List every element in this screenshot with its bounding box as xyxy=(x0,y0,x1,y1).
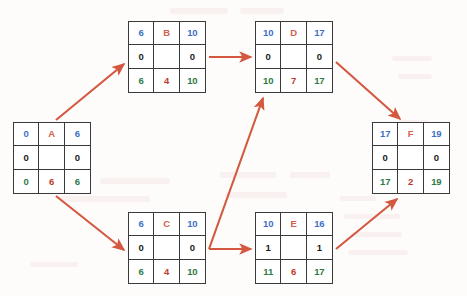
node-f-activity-name: F xyxy=(398,123,423,146)
node-a-free-slack: 0 xyxy=(14,146,39,169)
node-b-free-slack: 0 xyxy=(129,45,154,68)
node-e-late-finish: 17 xyxy=(307,260,332,283)
node-f-late-start: 17 xyxy=(373,170,398,193)
node-c-late-start: 6 xyxy=(129,260,154,283)
node-d-activity-name: D xyxy=(281,22,306,45)
node-c-late-finish: 10 xyxy=(180,260,205,283)
node-b-total-slack: 0 xyxy=(180,45,205,68)
node-b-late-start: 6 xyxy=(129,69,154,92)
node-d-free-slack: 0 xyxy=(256,45,281,68)
edge-a-to-b xyxy=(56,64,124,120)
edge-e-to-f xyxy=(336,199,397,249)
node-a[interactable]: 0 A 6 0 0 0 6 6 xyxy=(13,122,91,194)
node-e-late-start: 11 xyxy=(256,260,281,283)
node-c-duration: 4 xyxy=(154,260,179,283)
node-a-center-blank xyxy=(39,146,64,169)
node-a-activity-name: A xyxy=(39,123,64,146)
node-d-late-finish: 17 xyxy=(307,69,332,92)
node-d-total-slack: 0 xyxy=(307,45,332,68)
node-f-early-finish: 19 xyxy=(424,123,449,146)
node-f-early-start: 17 xyxy=(373,123,398,146)
node-c-activity-name: C xyxy=(154,213,179,236)
node-d-early-finish: 17 xyxy=(307,22,332,45)
node-a-early-finish: 6 xyxy=(65,123,90,146)
node-e-activity-name: E xyxy=(281,213,306,236)
node-e-total-slack: 1 xyxy=(307,236,332,259)
node-d[interactable]: 10 D 17 0 0 10 7 17 xyxy=(255,21,333,93)
node-c-free-slack: 0 xyxy=(129,236,154,259)
node-e-free-slack: 1 xyxy=(256,236,281,259)
node-b-activity-name: B xyxy=(154,22,179,45)
edge-a-to-c xyxy=(56,196,124,250)
node-a-late-start: 0 xyxy=(14,170,39,193)
node-d-late-start: 10 xyxy=(256,69,281,92)
node-c-early-finish: 10 xyxy=(180,213,205,236)
edge-d-to-f xyxy=(336,62,400,119)
node-a-early-start: 0 xyxy=(14,123,39,146)
node-b-late-finish: 10 xyxy=(180,69,205,92)
node-a-duration: 6 xyxy=(39,170,64,193)
node-b-center-blank xyxy=(154,45,179,68)
node-e-center-blank xyxy=(281,236,306,259)
node-f-total-slack: 0 xyxy=(424,146,449,169)
node-d-center-blank xyxy=(281,45,306,68)
node-f-duration: 2 xyxy=(398,170,423,193)
node-c-center-blank xyxy=(154,236,179,259)
node-f-free-slack: 0 xyxy=(373,146,398,169)
node-c-total-slack: 0 xyxy=(180,236,205,259)
node-f-center-blank xyxy=(398,146,423,169)
node-e-duration: 6 xyxy=(281,260,306,283)
node-a-late-finish: 6 xyxy=(65,170,90,193)
node-d-duration: 7 xyxy=(281,69,306,92)
node-e-early-finish: 16 xyxy=(307,213,332,236)
node-f[interactable]: 17 F 19 0 0 17 2 19 xyxy=(372,122,450,194)
node-c-early-start: 6 xyxy=(129,213,154,236)
network-diagram-canvas: 0 A 6 0 0 0 6 6 6 B 10 0 0 6 4 10 6 C 10… xyxy=(0,0,467,296)
node-b-early-finish: 10 xyxy=(180,22,205,45)
node-b[interactable]: 6 B 10 0 0 6 4 10 xyxy=(128,21,206,93)
node-b-early-start: 6 xyxy=(129,22,154,45)
node-a-total-slack: 0 xyxy=(65,146,90,169)
node-e[interactable]: 10 E 16 1 1 11 6 17 xyxy=(255,212,333,284)
node-c[interactable]: 6 C 10 0 0 6 4 10 xyxy=(128,212,206,284)
node-e-early-start: 10 xyxy=(256,213,281,236)
node-b-duration: 4 xyxy=(154,69,179,92)
node-d-early-start: 10 xyxy=(256,22,281,45)
node-f-late-finish: 19 xyxy=(424,170,449,193)
